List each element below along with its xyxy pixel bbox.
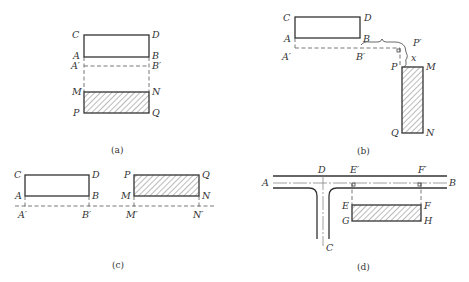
panel-d: A D E′ F′ B E F G H C (d) [261, 164, 456, 272]
label-c: C [72, 29, 80, 40]
label-p: P [123, 169, 131, 180]
label-c: C [326, 242, 334, 253]
panel-b: C D A B A′ B′ P′ x P M Q N (b) [281, 12, 436, 156]
label-m: M [425, 61, 436, 72]
label-p: P [72, 107, 80, 118]
road-edge-left-corner [273, 188, 317, 239]
rect-abcd [84, 35, 149, 57]
label-h: H [423, 215, 433, 226]
caption-d: (d) [357, 262, 370, 272]
label-q: Q [202, 169, 210, 180]
label-a: A [283, 33, 291, 44]
caption-a: (a) [111, 145, 123, 155]
label-c: C [283, 12, 291, 23]
panel-a: C D A B A′ B′ M N P Q (a) [70, 29, 162, 155]
panel-c: C D A B P Q M N A′ B′ M′ N′ (c) [14, 169, 216, 270]
label-p: P [390, 61, 398, 72]
label-f-prime: F′ [417, 164, 428, 175]
hatched-rect-pmnq [402, 67, 423, 133]
right-angle-mark-f [418, 183, 421, 186]
label-n-prime: N′ [192, 209, 204, 220]
label-m: M [71, 86, 82, 97]
label-a: A [261, 177, 269, 188]
label-b-prime: B′ [81, 209, 92, 220]
label-b-prime: B′ [355, 51, 366, 62]
label-n: N [201, 190, 211, 201]
figure-canvas: C D A B A′ B′ M N P Q (a) C D A B A′ B′ … [0, 0, 469, 282]
label-x: x [411, 52, 417, 63]
label-a-prime: A′ [17, 209, 28, 220]
label-n: N [425, 127, 435, 138]
label-p-prime: P′ [412, 37, 422, 48]
label-q: Q [391, 127, 399, 138]
brace-x [404, 52, 407, 67]
caption-b: (b) [357, 146, 370, 156]
caption-c: (c) [112, 260, 124, 270]
label-d: D [91, 169, 100, 180]
label-f: F [423, 200, 431, 211]
hatched-rect-pqmn [134, 175, 199, 196]
label-g: G [342, 215, 350, 226]
hatched-rect-efgh [352, 205, 421, 221]
label-b-prime: B′ [151, 60, 162, 71]
label-e-prime: E′ [349, 164, 360, 175]
right-angle-mark-e [352, 183, 355, 186]
label-d: D [317, 164, 326, 175]
hatched-rect-mnpq [84, 92, 149, 113]
label-m: M [120, 190, 131, 201]
label-a-prime: A′ [70, 60, 81, 71]
rect-abcd [25, 175, 89, 196]
label-b: B [91, 190, 99, 201]
label-c: C [14, 169, 22, 180]
label-d: D [363, 12, 372, 23]
label-b: B [448, 177, 456, 188]
label-a: A [14, 190, 22, 201]
label-e: E [341, 200, 349, 211]
label-b: B [362, 33, 370, 44]
label-a-prime: A′ [281, 51, 292, 62]
label-q: Q [152, 107, 160, 118]
label-n: N [151, 86, 161, 97]
right-angle-mark [397, 49, 400, 52]
label-d: D [151, 29, 160, 40]
label-m-prime: M′ [125, 209, 139, 220]
rect-abcd [295, 17, 360, 38]
